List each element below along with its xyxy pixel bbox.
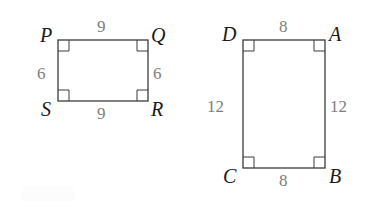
side-measure-qr: 6 (153, 65, 162, 82)
right-angle-mark-q (137, 40, 148, 51)
rectangle-dabc-shape (243, 40, 325, 168)
rectangle-dabc-outline (243, 40, 325, 168)
vertex-label-c: C (223, 166, 236, 186)
side-measure-sr: 9 (97, 105, 106, 122)
background-artifact (22, 186, 74, 201)
rectangle-pqrs-outline (58, 40, 148, 101)
side-measure-da: 8 (279, 18, 288, 35)
right-angle-mark-a (314, 40, 325, 51)
side-measure-pq: 9 (97, 18, 106, 35)
right-angle-mark-d (243, 40, 254, 51)
vertex-label-r: R (151, 99, 163, 119)
side-measure-ps: 6 (37, 65, 46, 82)
right-angle-mark-c (243, 157, 254, 168)
figure-svg (0, 0, 380, 209)
vertex-label-q: Q (151, 25, 165, 45)
geometry-figure: P Q R S 9 6 9 6 D A B C 8 12 8 12 (0, 0, 380, 209)
right-angle-mark-r (137, 90, 148, 101)
vertex-label-d: D (222, 24, 236, 44)
vertex-label-p: P (40, 25, 52, 45)
vertex-label-b: B (329, 166, 341, 186)
vertex-label-a: A (329, 24, 341, 44)
right-angle-mark-s (58, 90, 69, 101)
right-angle-mark-b (314, 157, 325, 168)
right-angle-mark-p (58, 40, 69, 51)
side-measure-cb: 8 (279, 172, 288, 189)
side-measure-ab: 12 (330, 98, 347, 115)
vertex-label-s: S (41, 99, 51, 119)
side-measure-dc: 12 (207, 98, 224, 115)
rectangle-pqrs-shape (58, 40, 148, 101)
